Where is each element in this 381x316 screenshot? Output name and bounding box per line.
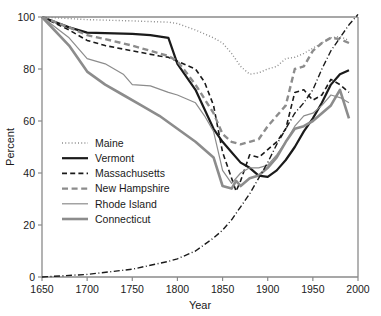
y-tick-label: 0: [29, 271, 35, 283]
legend-label-massachusetts: Massachusetts: [95, 167, 165, 179]
x-tick-label: 1900: [256, 283, 280, 295]
chart-legend: MaineVermontMassachusettsNew HampshireRh…: [62, 137, 170, 225]
x-tick-label: 1750: [121, 283, 145, 295]
y-tick-label: 60: [23, 115, 35, 127]
y-tick-label: 80: [23, 63, 35, 75]
y-tick-label: 20: [23, 219, 35, 231]
chart-container: 0204060801001650170017501800185019001950…: [0, 0, 381, 316]
axes: 0204060801001650170017501800185019001950…: [17, 11, 369, 295]
x-tick-label: 1850: [211, 283, 235, 295]
y-axis-title: Percent: [4, 128, 16, 166]
x-axis-title: Year: [189, 299, 212, 311]
legend-label-vermont: Vermont: [95, 152, 134, 164]
x-tick-label: 1650: [30, 283, 54, 295]
series-line-rhode-island: [42, 17, 349, 183]
x-tick-label: 1800: [166, 283, 190, 295]
x-tick-label: 1700: [75, 283, 99, 295]
legend-label-new-hampshire: New Hampshire: [95, 182, 170, 194]
y-tick-label: 100: [17, 11, 35, 23]
x-tick-label: 1950: [301, 283, 325, 295]
data-series: [42, 14, 358, 277]
x-tick-label: 2000: [346, 283, 370, 295]
legend-label-connecticut: Connecticut: [95, 213, 151, 225]
y-tick-label: 40: [23, 167, 35, 179]
legend-label-rhode-island: Rhode Island: [95, 198, 157, 210]
line-chart: 0204060801001650170017501800185019001950…: [0, 0, 381, 316]
legend-label-maine: Maine: [95, 137, 124, 149]
